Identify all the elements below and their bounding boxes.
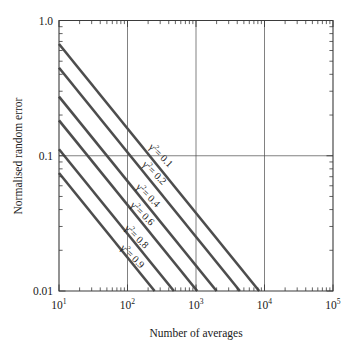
y-tick-label: 1.0 <box>39 15 54 27</box>
y-tick-label: 0.01 <box>33 285 53 297</box>
x-axis-title: Number of averages <box>149 327 243 340</box>
chart-container: 101102103104105 1.00.10.01 γ2= 0.1γ2= 0.… <box>0 0 356 351</box>
y-tick-label: 0.1 <box>39 150 54 162</box>
y-axis-title: Normalised random error <box>12 97 24 214</box>
log-log-chart: 101102103104105 1.00.10.01 γ2= 0.1γ2= 0.… <box>0 0 356 351</box>
